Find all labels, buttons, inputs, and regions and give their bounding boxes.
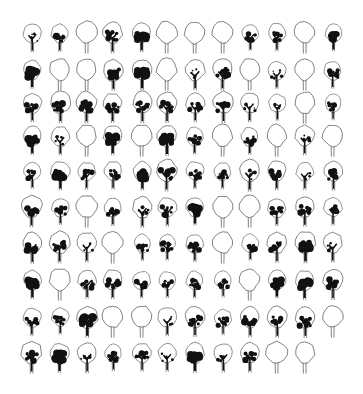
tree-icon: [212, 308, 234, 337]
tree-symbol: [99, 20, 126, 55]
tree-symbol: [154, 91, 180, 125]
tree-symbol: [99, 304, 126, 340]
tree-icon: [183, 160, 207, 191]
tree-icon: [291, 57, 318, 93]
tree-icon: [154, 91, 180, 125]
tree-symbol: [321, 160, 346, 193]
tree-icon: [209, 20, 236, 56]
tree-symbol: [291, 20, 318, 56]
tree-symbol: [266, 93, 289, 123]
tree-symbol: [265, 60, 289, 91]
tree-icon: [128, 304, 155, 340]
tree-symbol: [183, 233, 207, 264]
tree-symbol: [264, 305, 291, 340]
tree-symbol: [181, 20, 208, 56]
tree-symbol: [291, 57, 318, 93]
tree-icon: [183, 270, 206, 300]
tree-symbol: [153, 158, 180, 193]
tree-icon: [292, 305, 319, 340]
tree-symbol: [291, 90, 318, 126]
tree-icon: [265, 60, 289, 91]
tree-icon: [292, 230, 319, 265]
tree-icon: [100, 124, 125, 157]
tree-symbol: [319, 304, 346, 340]
tree-symbol: [129, 58, 155, 92]
tree-symbol: [265, 22, 289, 53]
tree-icon: [46, 267, 73, 303]
tree-symbol: [47, 342, 72, 375]
tree-icon: [73, 20, 100, 56]
tree-icon: [211, 342, 236, 374]
tree-symbol: [210, 90, 237, 125]
tree-symbol: [128, 304, 155, 340]
tree-icon: [73, 90, 100, 125]
tree-symbol: [101, 197, 125, 228]
tree-icon: [209, 194, 236, 230]
tree-symbol: [100, 124, 125, 157]
tree-icon: [129, 90, 156, 125]
tree-icon: [236, 57, 263, 93]
tree-icon: [210, 90, 237, 125]
tree-symbol-sheet: [0, 0, 363, 394]
tree-icon: [20, 307, 44, 338]
tree-symbol: [130, 342, 154, 374]
tree-symbol: [74, 305, 101, 340]
tree-symbol: [211, 161, 234, 191]
tree-icon: [320, 268, 346, 302]
tree-symbol: [265, 197, 289, 228]
tree-icon: [322, 23, 345, 53]
tree-symbol: [265, 269, 289, 300]
tree-icon: [75, 161, 98, 191]
tree-icon: [265, 269, 289, 300]
tree-icon: [264, 231, 290, 265]
tree-icon: [99, 230, 126, 266]
tree-symbol: [75, 269, 99, 301]
tree-symbol: [182, 58, 208, 92]
tree-icon: [48, 125, 73, 157]
tree-icon: [292, 195, 318, 229]
tree-symbol: [183, 270, 206, 300]
tree-icon: [73, 57, 100, 93]
tree-symbol: [75, 161, 98, 191]
tree-icon: [291, 340, 318, 376]
tree-symbol: [183, 196, 207, 227]
tree-icon: [49, 197, 72, 227]
tree-symbol: [101, 160, 125, 192]
tree-icon: [20, 269, 45, 301]
tree-symbol: [130, 270, 153, 300]
tree-symbol: [320, 268, 346, 302]
tree-symbol: [291, 340, 318, 376]
tree-symbol: [155, 342, 179, 374]
tree-symbol: [20, 307, 44, 338]
tree-icon: [19, 231, 46, 266]
tree-icon: [74, 231, 100, 265]
tree-icon: [49, 307, 71, 336]
tree-symbol: [209, 123, 236, 159]
tree-symbol: [73, 57, 100, 93]
tree-symbol: [47, 90, 74, 125]
tree-symbol: [46, 267, 73, 303]
tree-symbol: [129, 21, 154, 54]
tree-icon: [293, 161, 317, 192]
tree-symbol: [237, 305, 263, 339]
tree-symbol: [209, 230, 236, 266]
tree-symbol: [321, 196, 345, 227]
tree-icon: [74, 341, 100, 375]
tree-icon: [236, 158, 263, 194]
tree-icon: [100, 58, 127, 93]
tree-symbol: [153, 57, 180, 93]
tree-symbol: [48, 160, 73, 192]
tree-symbol: [182, 341, 208, 375]
tree-icon: [321, 160, 346, 193]
tree-symbol: [48, 23, 72, 54]
tree-icon: [20, 125, 44, 157]
tree-symbol: [155, 196, 180, 228]
tree-symbol: [99, 230, 126, 266]
tree-icon: [236, 267, 263, 303]
tree-icon: [209, 230, 236, 266]
tree-symbol: [238, 126, 261, 157]
tree-symbol: [322, 23, 345, 53]
tree-icon: [156, 233, 178, 262]
tree-icon: [319, 304, 346, 340]
tree-symbol: [209, 20, 236, 56]
